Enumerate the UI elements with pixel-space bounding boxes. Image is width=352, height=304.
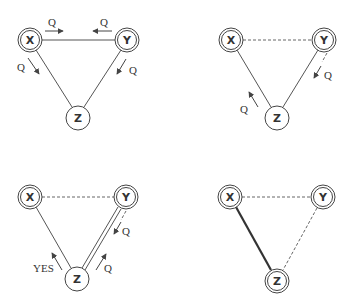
node-x: X xyxy=(18,28,42,52)
edge-y-z-dashed xyxy=(121,211,126,220)
svg-text:Z: Z xyxy=(273,112,281,125)
svg-text:Z: Z xyxy=(73,273,81,286)
edge-y-z xyxy=(84,50,121,107)
edge-y-z xyxy=(82,207,118,268)
node-y: Y xyxy=(312,28,336,52)
svg-text:Y: Y xyxy=(122,34,132,47)
node-y: Y xyxy=(114,185,138,209)
svg-text:Z: Z xyxy=(273,275,281,288)
svg-text:X: X xyxy=(26,191,35,204)
edge-x-z xyxy=(36,50,72,107)
edge-x-z xyxy=(237,50,271,107)
svg-text:Z: Z xyxy=(74,112,82,125)
svg-text:X: X xyxy=(226,191,235,204)
svg-text:Y: Y xyxy=(121,191,131,204)
node-z: Z xyxy=(265,269,289,293)
node-y: Y xyxy=(311,185,335,209)
arrow-y-to-z xyxy=(117,59,126,74)
arrow-x-to-z xyxy=(28,58,39,74)
message-label-q: Q xyxy=(324,69,332,81)
arrow-z-to-x xyxy=(249,92,258,107)
panel-top-left: Q Q Q Q X Y Z xyxy=(17,16,139,130)
message-label-q: Q xyxy=(17,61,25,73)
node-z: Z xyxy=(265,106,289,130)
svg-text:X: X xyxy=(26,34,35,47)
svg-text:X: X xyxy=(227,34,236,47)
edge-y-z-second xyxy=(85,209,121,270)
arrow-y-to-z xyxy=(314,66,321,78)
message-label-q: Q xyxy=(100,16,108,28)
svg-text:Y: Y xyxy=(318,191,328,204)
svg-text:Y: Y xyxy=(319,34,329,47)
diagram-canvas: Q Q Q Q X Y Z Q Q xyxy=(0,0,352,304)
edge-y-z xyxy=(283,50,318,107)
message-label-yes: YES xyxy=(33,262,54,274)
arrow-y-to-z xyxy=(114,222,121,234)
node-z: Z xyxy=(66,106,90,130)
message-label-q: Q xyxy=(122,225,130,237)
node-x: X xyxy=(218,185,242,209)
edge-x-z xyxy=(36,207,71,268)
node-x: X xyxy=(219,28,243,52)
panel-bottom-left: Q Q YES X Y Z xyxy=(18,185,138,291)
node-z: Z xyxy=(65,267,89,291)
edge-y-z-dashed xyxy=(322,53,327,62)
message-label-q: Q xyxy=(48,16,56,28)
panel-bottom-right: X Y Z xyxy=(218,185,335,293)
node-x: X xyxy=(18,185,42,209)
edge-y-z xyxy=(283,208,317,270)
edge-x-z xyxy=(236,207,271,270)
message-label-q: Q xyxy=(240,103,248,115)
panel-top-right: Q Q X Y Z xyxy=(219,28,336,130)
message-label-q: Q xyxy=(129,64,137,76)
message-label-q: Q xyxy=(104,262,112,274)
node-y: Y xyxy=(115,28,139,52)
